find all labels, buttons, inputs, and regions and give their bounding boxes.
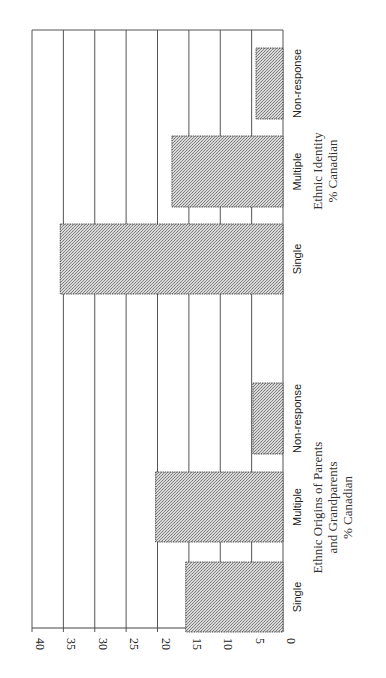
- tick-label: 10: [221, 638, 235, 650]
- category-label: Multiple: [291, 153, 303, 191]
- bars: [60, 48, 283, 632]
- category-label: Single: [291, 244, 303, 275]
- tick-label: 25: [127, 638, 141, 650]
- bar: [253, 383, 283, 454]
- category-label: Non-response: [291, 49, 303, 118]
- category-label: Multiple: [291, 488, 303, 526]
- group-label: Ethnic Identity: [310, 132, 325, 210]
- bar: [156, 472, 283, 542]
- group-label: % Canadian: [325, 139, 340, 203]
- category-labels: SingleMultipleNon-responseEthnic Origins…: [291, 49, 355, 612]
- category-label: Non-response: [291, 384, 303, 453]
- tick-label: 40: [33, 638, 47, 650]
- group-label: and Grandparents: [325, 461, 340, 553]
- group-label: % Canadian: [340, 475, 355, 539]
- tick-label: 15: [190, 638, 204, 650]
- tick-label: 20: [159, 638, 173, 650]
- bar: [60, 224, 283, 294]
- bar: [186, 562, 283, 632]
- group-label: Ethnic Origins of Parents: [310, 442, 325, 574]
- bar: [172, 136, 283, 207]
- tick-label: 35: [64, 638, 78, 650]
- tick-label: 30: [96, 638, 110, 650]
- tick-label: 5: [253, 638, 267, 644]
- bar: [256, 48, 283, 119]
- tick-label: 0: [284, 638, 298, 644]
- category-label: Single: [291, 582, 303, 613]
- rotated-bar-chart: 0510152025303540 SingleMultipleNon-respo…: [0, 0, 386, 678]
